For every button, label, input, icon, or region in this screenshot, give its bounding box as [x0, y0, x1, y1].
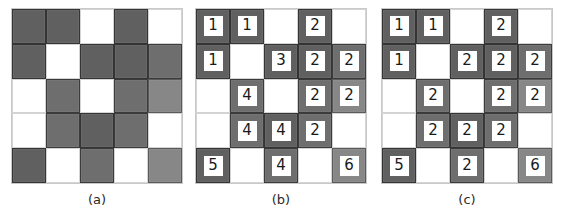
cell-label: 5 [204, 156, 223, 176]
cell-label: 2 [492, 16, 511, 36]
grid-cell-empty [196, 79, 230, 114]
grid-cell-filled: 2 [416, 113, 450, 148]
grid-cell-empty [12, 79, 46, 114]
grid-cell-filled [80, 113, 114, 148]
cell-label: 4 [272, 156, 291, 176]
panel-a [11, 8, 183, 184]
cell-label: 2 [340, 86, 359, 106]
grid-cell-empty [450, 9, 484, 44]
grid-cell-empty [332, 113, 366, 148]
grid-cell-filled: 4 [230, 113, 264, 148]
grid-cell-filled: 2 [484, 9, 518, 44]
grid-cell-filled [12, 9, 46, 44]
grid-cell-filled: 2 [518, 79, 552, 114]
grid-cell-filled: 2 [484, 113, 518, 148]
caption-c: (c) [381, 192, 553, 207]
cell-label: 2 [492, 51, 511, 71]
grid-cell-filled [12, 148, 46, 183]
cell-label: 2 [526, 51, 545, 71]
cell-label: 1 [390, 16, 409, 36]
grid-cell-filled: 2 [484, 79, 518, 114]
grid-cell-empty [46, 148, 80, 183]
cell-label: 1 [204, 16, 223, 36]
cell-label: 2 [424, 86, 443, 106]
cell-label: 4 [238, 121, 257, 141]
grid-cell-filled [148, 44, 182, 79]
grid-cell-empty [416, 148, 450, 183]
connected-components-figure: (a) 1121322422442546 (b) 112122222222252… [0, 0, 566, 220]
cell-label: 2 [458, 51, 477, 71]
grid-cell-empty [264, 79, 298, 114]
grid-cell-filled: 3 [264, 44, 298, 79]
cell-label: 4 [238, 86, 257, 106]
cell-label: 2 [306, 16, 325, 36]
grid-cell-filled: 1 [416, 9, 450, 44]
grid-cell-filled: 1 [382, 44, 416, 79]
cell-label: 2 [492, 86, 511, 106]
grid-cell-empty [450, 79, 484, 114]
grid-cell-filled: 2 [298, 113, 332, 148]
cell-label: 6 [526, 156, 545, 176]
grid-cell-empty [332, 9, 366, 44]
grid-cell-empty [46, 44, 80, 79]
cell-label: 1 [238, 16, 257, 36]
cell-label: 1 [424, 16, 443, 36]
grid-cell-empty [114, 148, 148, 183]
grid-cell-filled [46, 113, 80, 148]
cell-label: 2 [458, 121, 477, 141]
grid-cell-filled [114, 44, 148, 79]
cell-label: 6 [340, 156, 359, 176]
binary-image-grid [11, 8, 183, 184]
grid-cell-filled: 1 [196, 9, 230, 44]
grid-cell-filled: 2 [332, 44, 366, 79]
panel-b: 1121322422442546 [195, 8, 367, 184]
grid-cell-empty [518, 113, 552, 148]
grid-cell-empty [80, 79, 114, 114]
grid-cell-filled: 2 [332, 79, 366, 114]
grid-cell-filled: 6 [518, 148, 552, 183]
grid-cell-filled [114, 9, 148, 44]
grid-cell-empty [148, 113, 182, 148]
grid-cell-empty [382, 79, 416, 114]
grid-cell-filled [114, 113, 148, 148]
grid-cell-empty [196, 113, 230, 148]
grid-cell-empty [298, 148, 332, 183]
grid-cell-filled: 4 [230, 79, 264, 114]
grid-cell-filled: 2 [416, 79, 450, 114]
grid-cell-filled: 2 [484, 44, 518, 79]
cell-label: 1 [390, 51, 409, 71]
cell-label: 5 [390, 156, 409, 176]
grid-cell-empty [80, 9, 114, 44]
cell-label: 2 [458, 156, 477, 176]
grid-cell-filled [46, 79, 80, 114]
caption-a: (a) [11, 192, 183, 207]
cell-label: 2 [306, 86, 325, 106]
grid-cell-filled: 2 [450, 148, 484, 183]
grid-cell-filled [12, 44, 46, 79]
grid-cell-filled: 1 [382, 9, 416, 44]
cell-label: 2 [492, 121, 511, 141]
grid-cell-empty [230, 44, 264, 79]
grid-cell-filled: 2 [298, 44, 332, 79]
grid-cell-filled: 4 [264, 113, 298, 148]
grid-cell-filled: 5 [196, 148, 230, 183]
grid-cell-filled: 2 [518, 44, 552, 79]
cell-label: 2 [306, 51, 325, 71]
cell-label: 4 [272, 121, 291, 141]
grid-cell-empty [382, 113, 416, 148]
grid-cell-filled: 1 [230, 9, 264, 44]
grid-cell-filled: 2 [450, 113, 484, 148]
grid-cell-filled [148, 79, 182, 114]
grid-cell-filled: 5 [382, 148, 416, 183]
grid-cell-empty [416, 44, 450, 79]
cell-label: 2 [424, 121, 443, 141]
grid-cell-filled [46, 9, 80, 44]
panel-c: 1121222222222526 [381, 8, 553, 184]
grid-cell-filled: 2 [298, 79, 332, 114]
grid-cell-filled: 1 [196, 44, 230, 79]
grid-cell-filled: 4 [264, 148, 298, 183]
grid-cell-filled [114, 79, 148, 114]
cell-label: 2 [526, 86, 545, 106]
grid-cell-empty [484, 148, 518, 183]
provisional-labels-grid: 1121322422442546 [195, 8, 367, 184]
